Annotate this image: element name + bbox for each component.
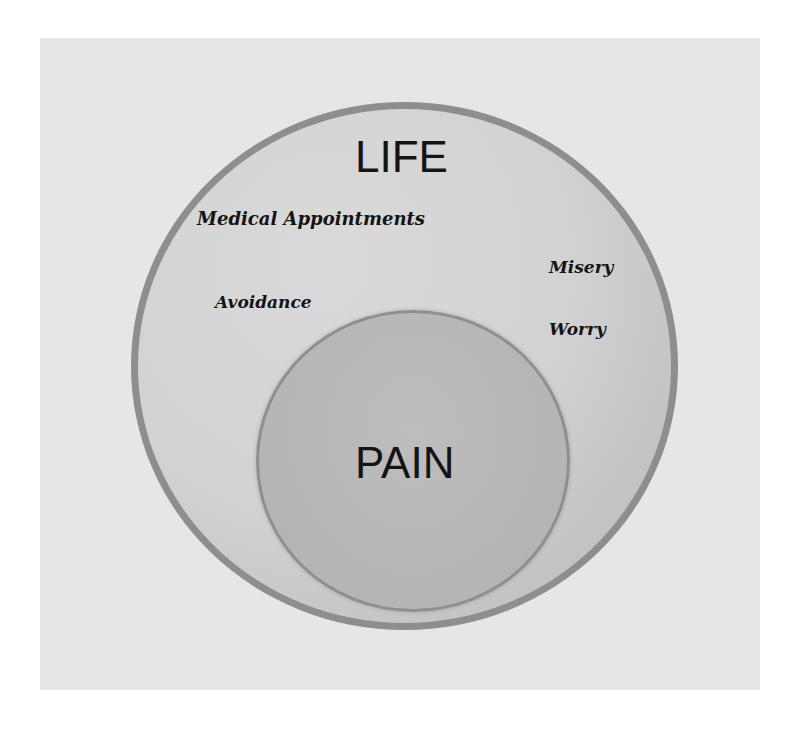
- worry-label: Worry: [549, 319, 606, 339]
- life-label: LIFE: [355, 132, 448, 182]
- misery-label: Misery: [549, 257, 614, 277]
- avoidance-label: Avoidance: [215, 292, 312, 312]
- pain-label: PAIN: [355, 438, 454, 488]
- medical-appointments-label: Medical Appointments: [197, 208, 425, 229]
